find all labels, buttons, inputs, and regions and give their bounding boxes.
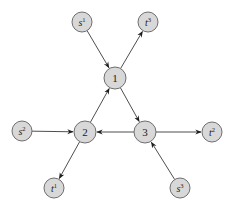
edge-s1-to-n1 (87, 31, 109, 68)
node-t1: t1 (44, 178, 64, 198)
edge-s3-to-n3 (151, 142, 174, 179)
node-n3: 3 (134, 121, 156, 143)
node-s3: s3 (170, 178, 190, 198)
edge-n2-to-t1 (59, 142, 79, 179)
node-label-base: 3 (142, 126, 148, 138)
nodes-layer: s1t31s223t2t1s3 (12, 12, 222, 198)
node-label-base: 2 (82, 126, 88, 138)
node-t2: t2 (202, 122, 222, 142)
edge-n1-to-t3 (121, 31, 143, 68)
node-t3: t3 (138, 12, 158, 32)
node-label-superscript: 3 (180, 182, 183, 189)
node-label-superscript: 3 (148, 16, 151, 23)
node-label-superscript: 1 (54, 182, 57, 189)
node-s1: s1 (72, 12, 92, 32)
node-label: 2 (82, 126, 88, 138)
node-n1: 1 (104, 67, 126, 89)
node-s2: s2 (12, 121, 32, 141)
node-label-superscript: 2 (212, 126, 215, 133)
node-n2: 2 (74, 121, 96, 143)
edge-n1-to-n3 (120, 88, 139, 122)
node-label-superscript: 1 (82, 16, 85, 23)
edges-layer (32, 31, 201, 180)
network-diagram: s1t31s223t2t1s3 (0, 0, 234, 207)
edge-s2-to-n2 (32, 131, 73, 132)
edge-n2-to-n1 (90, 88, 109, 122)
node-label: 3 (142, 126, 148, 138)
node-label-superscript: 2 (22, 125, 25, 132)
node-label: 1 (112, 72, 118, 84)
node-label-base: 1 (112, 72, 118, 84)
